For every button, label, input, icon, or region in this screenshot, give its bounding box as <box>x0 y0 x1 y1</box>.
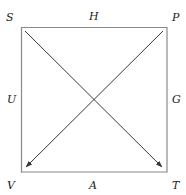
edge-label-right: G <box>172 93 181 106</box>
arrow-s-to-t <box>25 31 162 167</box>
corner-label-bottom-right: T <box>172 179 181 192</box>
corner-label-bottom-left: V <box>7 179 16 192</box>
corner-label-top-right: P <box>171 11 180 24</box>
edge-label-bottom: A <box>88 179 97 192</box>
edge-label-top: H <box>88 10 99 23</box>
arrow-p-to-v <box>26 31 163 167</box>
corner-label-top-left: S <box>6 11 14 24</box>
square-diagram: S P V T H U G A <box>0 0 186 195</box>
edge-label-left: U <box>7 93 17 106</box>
